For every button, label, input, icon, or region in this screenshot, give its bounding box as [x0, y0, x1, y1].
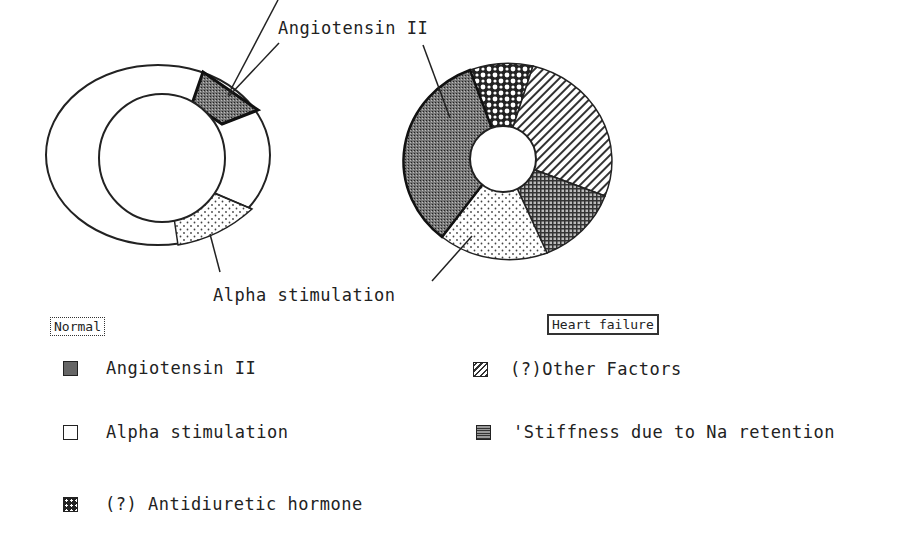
legend-item-angiotensin: Angiotensin II	[63, 358, 256, 378]
grid-pattern-swatch-icon	[476, 425, 491, 440]
dark-pattern-swatch-icon	[63, 361, 78, 376]
legend-item-other-factors: (?)Other Factors	[473, 359, 682, 379]
dots-pattern-swatch-icon	[63, 425, 78, 440]
heart-failure-donut	[404, 63, 612, 259]
callout-alpha: Alpha stimulation	[213, 285, 396, 305]
callout-angiotensin: Angiotensin II	[278, 18, 428, 38]
checker-pattern-swatch-icon	[63, 497, 78, 512]
legend-title-normal: Normal	[50, 317, 105, 336]
normal-donut	[46, 65, 270, 245]
legend-item-stiffness: 'Stiffness due to Na retention	[476, 422, 835, 442]
legend-item-adh: (?) Antidiuretic hormone	[63, 494, 363, 514]
legend-title-heart-failure: Heart failure	[547, 314, 659, 335]
legend-item-alpha: Alpha stimulation	[63, 422, 289, 442]
hatch-pattern-swatch-icon	[473, 362, 488, 377]
donut-charts	[0, 0, 904, 553]
